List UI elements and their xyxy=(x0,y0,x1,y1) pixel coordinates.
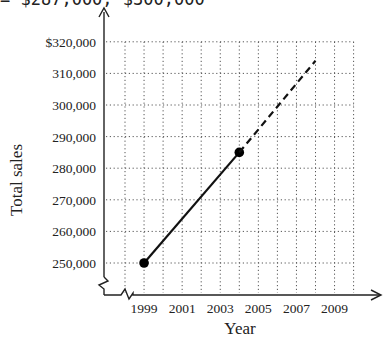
y-tick-label: $320,000 xyxy=(45,35,96,50)
x-tick-labels: 199920012003200520072009 xyxy=(131,301,349,316)
x-tick-label: 1999 xyxy=(131,301,158,316)
grid xyxy=(106,42,354,293)
sales-line xyxy=(144,152,239,263)
y-tick-label: 290,000 xyxy=(52,130,96,145)
x-axis xyxy=(104,289,380,299)
data-point-marker xyxy=(139,258,149,268)
y-tick-labels: $320,000310,000300,000290,000280,000270,… xyxy=(45,35,96,271)
y-tick-label: 300,000 xyxy=(52,98,96,113)
line-chart: $320,000310,000300,000290,000280,000270,… xyxy=(0,0,385,342)
y-axis-title: Total sales xyxy=(7,144,26,216)
y-tick-label: 270,000 xyxy=(52,193,96,208)
y-tick-label: 310,000 xyxy=(52,66,96,81)
x-axis-title: Year xyxy=(224,319,256,338)
x-tick-label: 2001 xyxy=(169,301,196,316)
x-tick-label: 2003 xyxy=(207,301,234,316)
data-series xyxy=(139,61,315,268)
y-axis-break-icon xyxy=(99,277,108,295)
x-tick-label: 2007 xyxy=(283,301,310,316)
projection-line xyxy=(239,61,315,153)
y-tick-label: 260,000 xyxy=(52,224,96,239)
x-tick-label: 2009 xyxy=(321,301,348,316)
y-tick-label: 250,000 xyxy=(52,256,96,271)
x-tick-label: 2005 xyxy=(245,301,272,316)
y-tick-label: 280,000 xyxy=(52,161,96,176)
